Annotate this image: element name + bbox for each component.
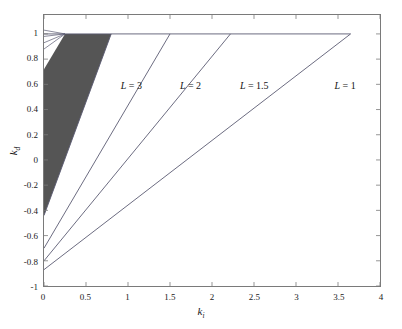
curve-label-L1: L = 1: [335, 81, 356, 91]
curve-label-symbol: L: [180, 80, 186, 91]
ytick-label: -0.8: [16, 257, 38, 266]
ytick-label: 0: [16, 156, 38, 165]
fan-line-0: [44, 30, 65, 34]
plot-canvas: [44, 15, 380, 286]
x-axis-title: ki: [198, 306, 205, 317]
xtick-label: 0.5: [80, 293, 91, 302]
y-axis-title: kd: [8, 147, 19, 156]
xtick-label: 4: [379, 293, 384, 302]
curve-label-value: = 1.5: [248, 80, 269, 91]
curve-label-symbol: L: [240, 80, 246, 91]
y-axis-title-sub: d: [12, 147, 21, 151]
xtick-label: 1.5: [164, 293, 175, 302]
xtick-label: 2: [210, 293, 215, 302]
xtick-label: 0: [41, 293, 46, 302]
xtick-label: 1: [125, 293, 130, 302]
plot-area: [43, 14, 381, 287]
curve-label-L2: L = 2: [180, 81, 201, 91]
ytick-label: -0.6: [16, 232, 38, 241]
ytick-label: -1: [16, 283, 38, 292]
curve-label-value: = 3: [129, 80, 142, 91]
ytick-label: 0.4: [16, 105, 38, 114]
curve-label-symbol: L: [121, 80, 127, 91]
curve-label-symbol: L: [335, 80, 341, 91]
ytick-label: -0.4: [16, 206, 38, 215]
curve-label-value: = 2: [188, 80, 201, 91]
curve-label-value: = 1: [343, 80, 356, 91]
xtick-label: 2.5: [249, 293, 260, 302]
curve-label-L3: L = 3: [121, 81, 142, 91]
figure-container: 1 0.8 0.6 0.4 0.2 0 -0.2 -0.4 -0.6 -0.8 …: [0, 0, 402, 329]
curve-label-L15: L = 1.5: [240, 81, 269, 91]
x-axis-title-sub: i: [202, 311, 204, 320]
ytick-label: -0.2: [16, 181, 38, 190]
xtick-label: 3: [294, 293, 299, 302]
ytick-label: 0.6: [16, 79, 38, 88]
ytick-label: 1: [16, 29, 38, 38]
y-axis-title-base: k: [7, 150, 19, 155]
xtick-label: 3.5: [333, 293, 344, 302]
ytick-label: 0.8: [16, 54, 38, 63]
ytick-label: 0.2: [16, 130, 38, 139]
